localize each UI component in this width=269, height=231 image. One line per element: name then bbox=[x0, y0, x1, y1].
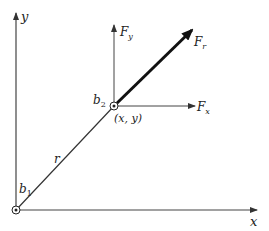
force-r-arrow bbox=[114, 30, 192, 106]
y-axis-label: y bbox=[20, 9, 29, 24]
coordinate-label: (x, y) bbox=[114, 112, 142, 125]
b2-label: b2 bbox=[93, 93, 106, 109]
diagram-svg: y x b1 b2 (x, y) r Fy Fr Fx bbox=[0, 0, 269, 231]
force-r-label: Fr bbox=[193, 35, 207, 51]
vector-diagram: y x b1 b2 (x, y) r Fy Fr Fx bbox=[0, 0, 269, 231]
b1-label: b1 bbox=[19, 182, 32, 198]
force-x-label: Fx bbox=[196, 100, 210, 116]
force-y-label: Fy bbox=[119, 25, 133, 41]
pin-b2-icon bbox=[110, 102, 118, 110]
pin-b1-icon bbox=[12, 206, 20, 214]
x-axis-label: x bbox=[250, 214, 258, 229]
